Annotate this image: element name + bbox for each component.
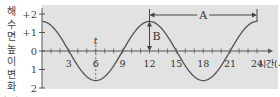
y-tick-label: +2 [22,9,37,20]
annotation-B: B [153,30,161,43]
x-tick-label: 3 [66,58,72,69]
plot-background [42,5,278,89]
tide-chart: +2+1012 3691215182124 시간(시) ABt [0,0,280,97]
x-tick-label: 15 [170,58,182,69]
y-tick-label: 2 [31,83,37,94]
annotation-A: A [198,9,208,22]
y-tick-label: 0 [31,46,37,57]
x-axis-label: 시간(시) [258,59,280,69]
x-tick-label: 9 [120,58,126,69]
y-tick-label: +1 [22,27,37,38]
x-tick-label: 18 [197,58,209,69]
x-tick-label: 6 [93,58,99,69]
x-tick-label: 12 [143,58,155,69]
y-tick-label: 1 [31,64,37,75]
x-tick-label: 21 [224,58,236,69]
